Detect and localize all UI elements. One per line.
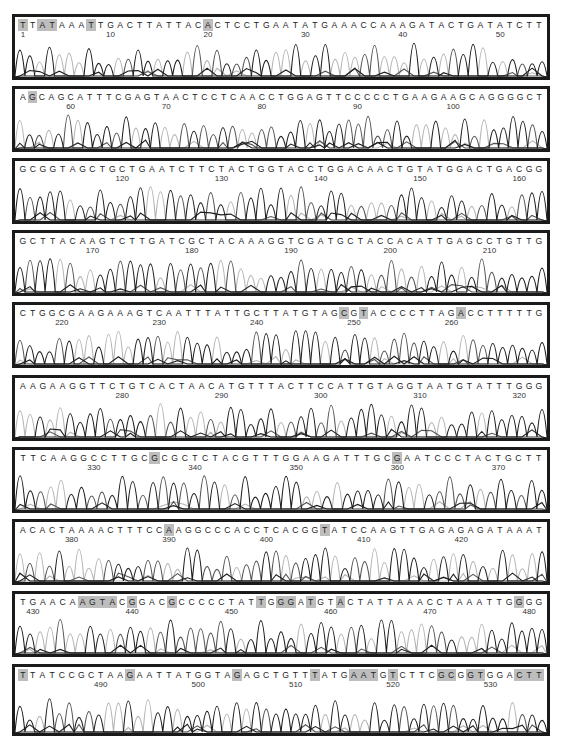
chromatogram-row: GCGGTAGCTGCTGAATCTTCTACTGGTACCTGGACAACTG… (12, 158, 550, 224)
position-tick-label: 520 (386, 680, 399, 690)
position-ticks: 490500510520530 (18, 680, 544, 690)
position-tick-label: 510 (289, 680, 302, 690)
chromatogram-row: ACACTAAAACTTTCCAAGGCCCACCTCACGGTATCCAAGT… (12, 519, 550, 585)
chromatogram-row: GCTTACAAGTCTTGATCGCTACAAAGGTCGATGCTACCAC… (12, 230, 550, 296)
trace-signal (15, 695, 547, 733)
trace-signal (15, 39, 547, 77)
position-tick-label: 530 (484, 680, 497, 690)
trace-signal (15, 327, 547, 365)
chromatogram-row: TTATAAATTGACTTATTACACTCCTGAATATGAAACCAAA… (12, 14, 550, 80)
chromatogram-row: CTGGCGAAGAAAGTCAATTTATTGCTTATGTAGCGTACCC… (12, 302, 550, 368)
chromatogram-row: AGCAGCATTTCGAGTAACTCCTCAACCTGGAGTTCCCCCT… (12, 86, 550, 152)
trace-signal (15, 400, 547, 438)
position-tick-label: 490 (94, 680, 107, 690)
trace-signal (15, 255, 547, 293)
chromatogram-row: AAGAAGGTTCTGTCACTAACATGTTTACTTCCATTGTAGG… (12, 375, 550, 441)
position-tick-label: 500 (192, 680, 205, 690)
chromatogram-row: TTATCCGCTAAGAATTATGGTAGAGCTGTTTATGAATGTC… (12, 664, 550, 736)
chromatogram-row: TTCAAGGCCTTGCGCGCTCTACGTTTGGAAGATTTGCGAA… (12, 447, 550, 513)
trace-signal (15, 616, 547, 654)
trace-signal (15, 544, 547, 582)
trace-signal (15, 472, 547, 510)
chromatogram-row: TGAACAAGTACGGACGCCCCCTATTGGGATGTACTATTAA… (12, 591, 550, 657)
trace-signal (15, 111, 547, 149)
trace-signal (15, 183, 547, 221)
